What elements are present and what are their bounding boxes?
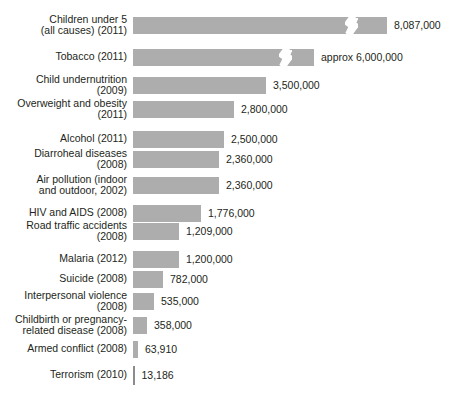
category-label: Overweight and obesity (2011)	[0, 98, 133, 121]
category-label: Interpersonal violence (2008)	[0, 290, 133, 313]
bar	[133, 293, 154, 310]
bar	[133, 131, 224, 148]
bar	[133, 317, 147, 334]
chart-row: Child undernutrition (2009)3,500,000	[0, 72, 470, 98]
value-label: 13,186	[135, 369, 174, 381]
bar	[133, 271, 163, 288]
chart-row: Children under 5 (all causes) (2011)8,08…	[0, 12, 470, 38]
bar	[133, 223, 179, 240]
chart-row: Childbirth or pregnancy- related disease…	[0, 312, 470, 338]
axis-break-icon	[279, 48, 292, 67]
category-label: Tobacco (2011)	[0, 51, 133, 62]
category-label: Road traffic accidents (2008)	[0, 220, 133, 243]
bar-track: 2,360,000	[133, 146, 470, 172]
category-label: HIV and AIDS (2008)	[0, 207, 133, 218]
value-label: 1,209,000	[179, 225, 233, 237]
chart-row: Armed conflict (2008)63,910	[0, 336, 470, 362]
category-label: Diarroheal diseases (2008)	[0, 148, 133, 171]
value-label: 8,087,000	[387, 19, 441, 31]
value-label: 358,000	[147, 319, 192, 331]
category-label: Children under 5 (all causes) (2011)	[0, 14, 133, 37]
category-label: Terrorism (2010)	[0, 369, 133, 380]
axis-break-icon	[345, 16, 358, 35]
value-label: 1,200,000	[179, 253, 233, 265]
chart-row: Terrorism (2010)13,186	[0, 362, 470, 388]
bar-track: 1,209,000	[133, 218, 470, 244]
value-label: 63,910	[138, 343, 177, 355]
value-label: 2,800,000	[234, 103, 288, 115]
category-label: Malaria (2012)	[0, 253, 133, 264]
bar	[133, 341, 138, 358]
value-label: 3,500,000	[266, 79, 320, 91]
chart-row: Road traffic accidents (2008)1,209,000	[0, 218, 470, 244]
bar-track: 2,360,000	[133, 172, 470, 198]
bar-track: 3,500,000	[133, 72, 470, 98]
value-label: 782,000	[163, 273, 208, 285]
bar	[133, 151, 219, 168]
category-label: Child undernutrition (2009)	[0, 74, 133, 97]
bar-track: approx 6,000,000	[133, 44, 470, 70]
value-label: 2,360,000	[219, 153, 273, 165]
bar	[133, 17, 387, 34]
chart-row: Interpersonal violence (2008)535,000	[0, 288, 470, 314]
bar-track: 358,000	[133, 312, 470, 338]
value-label: approx 6,000,000	[314, 51, 403, 63]
bar	[133, 177, 219, 194]
chart-row: Overweight and obesity (2011)2,800,000	[0, 96, 470, 122]
value-label: 2,360,000	[219, 179, 273, 191]
bar	[133, 101, 234, 118]
category-label: Suicide (2008)	[0, 273, 133, 284]
category-label: Armed conflict (2008)	[0, 343, 133, 354]
bar-track: 535,000	[133, 288, 470, 314]
bar-track: 13,186	[133, 362, 470, 388]
chart-row: Diarroheal diseases (2008)2,360,000	[0, 146, 470, 172]
chart-row: Tobacco (2011)approx 6,000,000	[0, 44, 470, 70]
bar-track: 63,910	[133, 336, 470, 362]
category-label: Childbirth or pregnancy- related disease…	[0, 314, 133, 337]
bar	[133, 251, 179, 268]
category-label: Air pollution (indoor and outdoor, 2002)	[0, 174, 133, 197]
bar-track: 8,087,000	[133, 12, 470, 38]
chart-row: Air pollution (indoor and outdoor, 2002)…	[0, 172, 470, 198]
value-label: 2,500,000	[224, 133, 278, 145]
bar	[133, 77, 266, 94]
bar	[133, 49, 314, 66]
category-label: Alcohol (2011)	[0, 133, 133, 144]
bar	[133, 366, 135, 385]
value-label: 535,000	[154, 295, 199, 307]
bar-track: 2,800,000	[133, 96, 470, 122]
bar-chart: Children under 5 (all causes) (2011)8,08…	[0, 0, 470, 395]
